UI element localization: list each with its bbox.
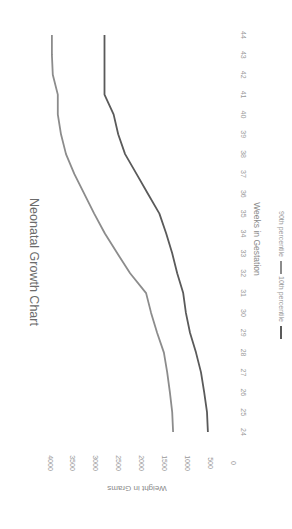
x-tick-label: 27 xyxy=(240,369,247,377)
y-tick-label: 2000 xyxy=(138,455,145,471)
y-axis-label: Weight in Grams xyxy=(107,484,166,493)
legend: 10th percentile90th percentile xyxy=(277,211,285,339)
y-tick-label: 2500 xyxy=(115,455,122,471)
series-lines xyxy=(52,35,208,432)
x-tick-label: 33 xyxy=(240,249,247,257)
x-tick-label: 44 xyxy=(240,31,247,39)
x-tick-label: 31 xyxy=(240,289,247,297)
x-tick-label: 32 xyxy=(240,269,247,277)
y-tick-label: 3500 xyxy=(69,455,76,471)
neonatal-growth-chart: Neonatal Growth Chart Weight in Grams We… xyxy=(0,0,292,529)
x-tick-label: 36 xyxy=(240,190,247,198)
y-tick-label: 500 xyxy=(207,457,214,469)
x-tick-label: 24 xyxy=(240,428,247,436)
x-tick-label: 29 xyxy=(240,329,247,337)
series-10th-percentile-line xyxy=(105,35,208,432)
x-tick-label: 42 xyxy=(240,71,247,79)
x-axis-label: Weeks in Gestation xyxy=(252,202,262,276)
x-axis-ticks: 2425262728293031323334353637383940414243… xyxy=(240,31,247,436)
legend-label: 90th percentile xyxy=(277,211,285,257)
y-tick-label: 1000 xyxy=(184,455,191,471)
x-tick-label: 39 xyxy=(240,130,247,138)
y-tick-label: 0 xyxy=(230,461,237,465)
x-tick-label: 28 xyxy=(240,349,247,357)
y-tick-label: 3000 xyxy=(92,455,99,471)
y-tick-label: 4000 xyxy=(47,455,54,471)
x-tick-label: 26 xyxy=(240,388,247,396)
series-90th-percentile-line xyxy=(52,35,173,432)
x-tick-label: 41 xyxy=(240,91,247,99)
x-tick-label: 43 xyxy=(240,51,247,59)
x-tick-label: 35 xyxy=(240,210,247,218)
y-axis-ticks: 05001000150020002500300035004000 xyxy=(47,455,237,471)
x-tick-label: 34 xyxy=(240,230,247,238)
chart-canvas: Neonatal Growth Chart Weight in Grams We… xyxy=(0,0,292,529)
y-tick-label: 1500 xyxy=(161,455,168,471)
x-tick-label: 30 xyxy=(240,309,247,317)
x-tick-label: 25 xyxy=(240,408,247,416)
x-tick-label: 40 xyxy=(240,111,247,119)
legend-label: 10th percentile xyxy=(277,276,285,322)
x-tick-label: 38 xyxy=(240,150,247,158)
chart-title: Neonatal Growth Chart xyxy=(27,198,41,326)
x-tick-label: 37 xyxy=(240,170,247,178)
